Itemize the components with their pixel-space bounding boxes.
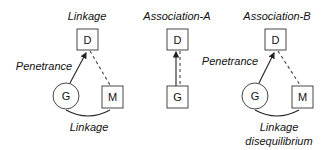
gene-node-label: G bbox=[173, 91, 182, 103]
penetrance-label: Penetrance bbox=[202, 55, 258, 67]
linkage-label: Linkage bbox=[70, 121, 109, 133]
panel-title: Linkage bbox=[68, 10, 107, 22]
genetics-diagram: Linkage D G M Penetrance Linkage Associa… bbox=[0, 0, 329, 150]
marker-node-label: M bbox=[108, 91, 117, 103]
linkage-disequilibrium-label-line2: disequilibrium bbox=[245, 135, 312, 147]
linkage-disequilibrium-label-line1: Linkage bbox=[260, 121, 299, 133]
gene-node-label: G bbox=[251, 90, 260, 102]
penetrance-label: Penetrance bbox=[16, 60, 72, 72]
linkage-edge bbox=[66, 110, 110, 116]
gene-node-label: G bbox=[62, 90, 71, 102]
disease-node-label: D bbox=[84, 34, 92, 46]
panel-title: Association-B bbox=[242, 10, 310, 22]
disease-marker-edge bbox=[278, 51, 300, 85]
disease-node-label: D bbox=[272, 34, 280, 46]
panel-title: Association-A bbox=[142, 10, 210, 22]
panel-association-b: Association-B D G M Penetrance Linkage d… bbox=[202, 10, 313, 147]
penetrance-edge bbox=[70, 53, 86, 83]
marker-node-label: M bbox=[298, 91, 307, 103]
penetrance-edge bbox=[259, 53, 274, 83]
disease-node-label: D bbox=[174, 34, 182, 46]
linkage-disequilibrium-edge bbox=[255, 110, 299, 116]
panel-linkage: Linkage D G M Penetrance Linkage bbox=[16, 10, 123, 133]
disease-marker-edge bbox=[90, 51, 110, 85]
panel-association-a: Association-A D G bbox=[142, 10, 210, 108]
